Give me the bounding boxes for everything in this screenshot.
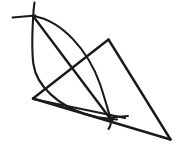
line-upper-left-tick	[13, 16, 36, 18]
geometric-figure-canvas	[0, 0, 185, 154]
line-d-to-c	[33, 40, 109, 99]
line-d-through-b-lower	[33, 99, 125, 118]
ink-strokes-group	[13, 3, 171, 140]
geometric-figure-svg	[0, 0, 185, 154]
